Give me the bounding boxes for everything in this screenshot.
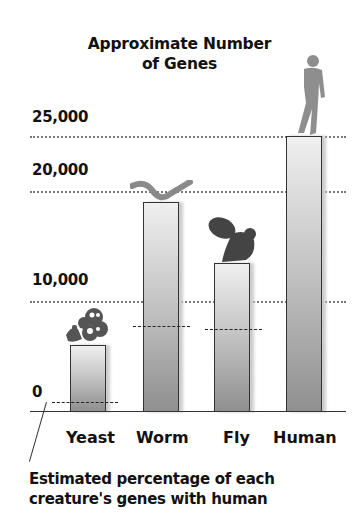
bar-human <box>286 136 322 412</box>
x-label-fly: Fly <box>223 428 250 447</box>
yeast-icon <box>64 305 110 347</box>
dashed-line-worm <box>133 326 190 327</box>
note-line-1: Estimated percentage of each <box>29 469 275 489</box>
dashed-line-yeast <box>52 402 118 403</box>
y-tick-25000: 25,000 <box>32 108 88 126</box>
y-tick-0: 0 <box>32 383 42 401</box>
human-icon <box>294 53 330 137</box>
x-label-worm: Worm <box>136 428 189 447</box>
x-label-human: Human <box>273 428 337 447</box>
x-axis-baseline <box>30 411 346 412</box>
bar-worm <box>143 202 179 412</box>
y-tick-10000: 10,000 <box>32 271 88 289</box>
bar-fly <box>214 263 250 412</box>
annotation-note: Estimated percentage of each creature's … <box>29 469 275 509</box>
dashed-line-fly <box>205 329 262 330</box>
title-line-1: Approximate Number <box>0 34 359 54</box>
y-tick-20000: 20,000 <box>32 161 88 179</box>
note-line-2: creature's genes with human <box>29 489 275 509</box>
fly-icon <box>206 214 260 264</box>
x-label-yeast: Yeast <box>66 428 115 447</box>
worm-icon <box>130 180 194 204</box>
